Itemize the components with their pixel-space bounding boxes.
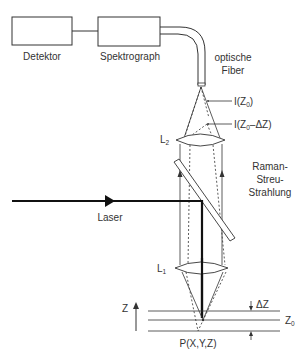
optical-fiber (160, 27, 205, 86)
raman-label-line2: Streu- (256, 174, 283, 185)
delta-z-label: ΔZ (256, 299, 269, 310)
intensity-defocus-label: I(Z0–ΔZ) (234, 119, 272, 131)
defocus-cone-bottom (186, 272, 226, 331)
intensity-z0-label: I(Z0) (234, 96, 253, 108)
focus-cone-top (184, 87, 220, 138)
detector-label: Detektor (23, 51, 61, 62)
z-axis-arrow (133, 302, 139, 331)
point-label: P(X,Y,Z) (179, 338, 216, 349)
z0-label: Z0 (285, 315, 295, 327)
sample-planes (148, 311, 280, 331)
raman-label-line1: Raman- (252, 161, 288, 172)
spectrograph-box (98, 17, 160, 46)
lens-l2 (176, 134, 225, 146)
lens-l1-label: L1 (157, 263, 167, 275)
detector-box (12, 17, 72, 45)
z-axis-label: Z (122, 303, 128, 314)
fiber-label-line2: Fiber (222, 65, 245, 76)
fiber-label-line1: optische (214, 52, 252, 63)
laser-label: Laser (97, 212, 123, 223)
lens-l2-label: L2 (160, 134, 170, 146)
raman-label-line3: Strahlung (249, 187, 292, 198)
raman-setup-diagram: Detektor Spektrograph optische Fiber I(Z… (0, 0, 307, 360)
delta-z-arrows (249, 301, 253, 340)
defocus-cone-top (185, 87, 213, 138)
spectrograph-label: Spektrograph (100, 51, 160, 62)
